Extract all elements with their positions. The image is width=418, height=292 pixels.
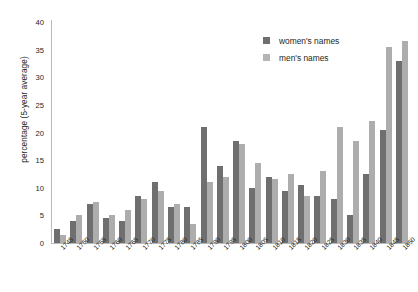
legend-swatch-icon-womens-names: [263, 37, 270, 44]
bar-group: [101, 22, 117, 243]
legend-item-mens-names: men's names: [263, 49, 339, 66]
bar-group: [394, 22, 410, 243]
y-axis-tick-label: 0: [4, 239, 44, 248]
bar-group: [377, 22, 393, 243]
bar-group: [345, 22, 361, 243]
bar-mens-names: [255, 163, 261, 243]
bar-mens-names: [402, 41, 408, 243]
bar-mens-names: [369, 121, 375, 243]
y-axis-tick-label: 20: [4, 128, 44, 137]
bar-group: [361, 22, 377, 243]
bar-group: [52, 22, 68, 243]
y-axis-tick-label: 15: [4, 156, 44, 165]
chart-legend: women's names men's names: [263, 32, 339, 66]
y-axis-tick-label: 25: [4, 100, 44, 109]
y-axis-tick-label: 35: [4, 45, 44, 54]
bar-group: [166, 22, 182, 243]
y-axis-tick-label: 10: [4, 183, 44, 192]
bar-mens-names: [272, 179, 278, 243]
bar-mens-names: [207, 182, 213, 243]
bar-mens-names: [239, 144, 245, 243]
bar-mens-names: [337, 127, 343, 243]
bar-mens-names: [223, 177, 229, 243]
bar-group: [182, 22, 198, 243]
bar-mens-names: [304, 196, 310, 243]
bar-group: [68, 22, 84, 243]
y-axis-tick-label: 30: [4, 73, 44, 82]
bar-mens-names: [353, 141, 359, 243]
bar-group: [150, 22, 166, 243]
legend-label-mens-names: men's names: [279, 53, 329, 63]
bar-mens-names: [141, 199, 147, 243]
legend-item-womens-names: women's names: [263, 32, 339, 49]
bar-mens-names: [386, 47, 392, 243]
bar-group: [247, 22, 263, 243]
plot-area: [52, 22, 410, 243]
bar-mens-names: [158, 191, 164, 243]
bar-group: [215, 22, 231, 243]
legend-label-womens-names: women's names: [279, 36, 339, 46]
bar-mens-names: [288, 174, 294, 243]
bar-group: [198, 22, 214, 243]
bar-mens-names: [320, 171, 326, 243]
y-axis-tick-label: 40: [4, 18, 44, 27]
bar-mens-names: [174, 204, 180, 243]
bar-group: [85, 22, 101, 243]
bar-group: [231, 22, 247, 243]
bar-chart: percentage (5-year average) 051015202530…: [0, 0, 418, 292]
bar-group: [133, 22, 149, 243]
y-axis-ticks: 0510152025303540: [0, 0, 52, 292]
legend-swatch-icon-mens-names: [263, 54, 270, 61]
y-axis-tick-label: 5: [4, 211, 44, 220]
bar-mens-names: [93, 202, 99, 243]
bar-group: [117, 22, 133, 243]
